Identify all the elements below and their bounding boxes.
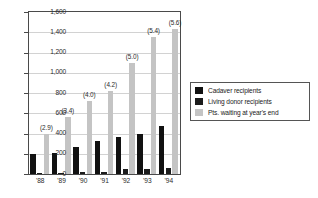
x-axis-tick-label: '93	[135, 178, 159, 185]
bar	[129, 63, 134, 174]
y-axis-tick-label: 600	[42, 110, 66, 117]
x-axis-tick-label: '92	[114, 178, 138, 185]
x-axis-tick-label: '94	[157, 178, 181, 185]
legend-label: Living donor recipients	[208, 98, 272, 105]
bar	[73, 147, 78, 174]
x-axis-tick-label: '90	[71, 178, 95, 185]
bar-value-annotation: (4.0)	[77, 92, 101, 98]
x-axis-tick-label: '88	[28, 178, 52, 185]
bar	[123, 169, 128, 174]
y-axis-tick-mark	[24, 73, 28, 74]
y-axis-tick-label: 1,000	[42, 69, 66, 76]
y-axis-tick-mark	[24, 154, 28, 155]
legend-label: Cadaver recipients	[208, 87, 261, 94]
bar-chart: (2.9)(3.4)(4.0)(4.2)(5.0)(5.4)(5.6) Cada…	[0, 0, 318, 198]
bar	[166, 168, 171, 174]
bar	[137, 134, 142, 175]
y-axis-tick-label: 1,200	[42, 49, 66, 56]
bar-value-annotation: (5.0)	[120, 54, 144, 60]
bar	[101, 172, 106, 174]
legend: Cadaver recipientsLiving donor recipient…	[190, 82, 310, 121]
y-axis-tick-mark	[24, 32, 28, 33]
bar	[65, 117, 70, 174]
bar-value-annotation: (5.6)	[163, 20, 187, 26]
legend-item: Living donor recipients	[195, 97, 305, 105]
bar	[151, 37, 156, 174]
y-axis-tick-mark	[24, 174, 28, 175]
bar	[172, 29, 177, 174]
y-axis-tick-mark	[24, 53, 28, 54]
bar	[159, 126, 164, 174]
bar	[116, 137, 121, 174]
legend-label: Pts. waiting at year's end	[208, 109, 279, 116]
y-axis-tick-label: 1,400	[42, 29, 66, 36]
legend-item: Pts. waiting at year's end	[195, 108, 305, 116]
legend-swatch	[195, 109, 203, 116]
y-axis-tick-mark	[24, 113, 28, 114]
bar	[108, 91, 113, 174]
y-axis-tick-mark	[24, 12, 28, 13]
y-axis-tick-label: 200	[42, 150, 66, 157]
y-axis-tick-mark	[24, 134, 28, 135]
bar	[144, 169, 149, 174]
bar-value-annotation: (4.2)	[99, 82, 123, 88]
legend-swatch	[195, 87, 203, 94]
y-axis-tick-label: 400	[42, 130, 66, 137]
y-axis-tick-label: 800	[42, 90, 66, 97]
y-axis-tick-label: 1,600	[42, 9, 66, 16]
bar	[87, 101, 92, 174]
x-axis-tick-label: '91	[93, 178, 117, 185]
bar	[80, 172, 85, 174]
x-axis-tick-label: '89	[50, 178, 74, 185]
bar	[95, 141, 100, 174]
bar-value-annotation: (5.4)	[142, 28, 166, 34]
legend-swatch	[195, 98, 203, 105]
bar	[30, 154, 35, 174]
y-axis-tick-mark	[24, 93, 28, 94]
legend-item: Cadaver recipients	[195, 86, 305, 94]
